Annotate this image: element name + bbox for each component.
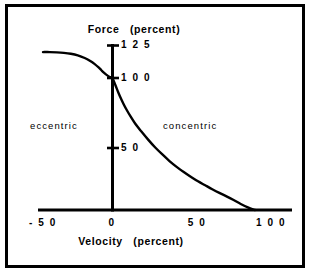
y-tick-label-125: 1 2 5 [121, 40, 151, 50]
force-velocity-figure: Force (percent) 1 2 5 1 0 0 5 0 - 5 0 0 … [0, 0, 312, 275]
x-axis-title-unit: (percent) [133, 235, 183, 247]
x-tick-label-0: 0 [108, 218, 115, 228]
y-axis-title-unit: (percent) [130, 23, 180, 35]
y-axis-title-name: Force [88, 23, 120, 35]
y-tick-label-50: 5 0 [121, 143, 140, 153]
annotation-concentric: concentric [163, 121, 217, 131]
x-tick-label-100: 1 0 0 [256, 218, 286, 228]
annotation-eccentric: eccentric [30, 121, 78, 131]
x-tick-label-neg50: - 5 0 [29, 218, 57, 228]
plot-canvas [0, 0, 312, 275]
y-tick-label-100: 1 0 0 [121, 73, 151, 83]
y-axis-title: Force (percent) [88, 24, 180, 35]
x-axis-title: Velocity (percent) [78, 236, 183, 247]
x-tick-label-50: 5 0 [188, 218, 207, 228]
x-axis-title-name: Velocity [78, 235, 123, 247]
